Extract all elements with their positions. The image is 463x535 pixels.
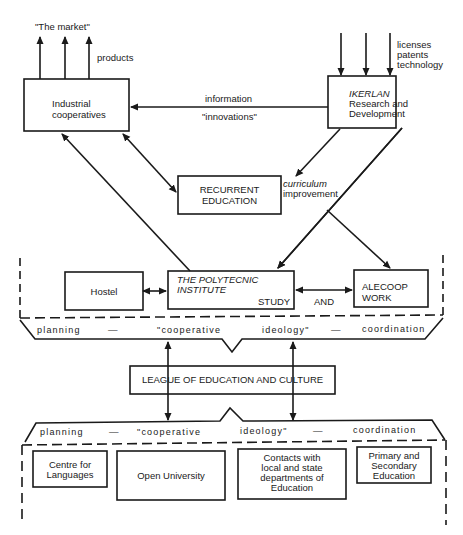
primary-line3: Education [357,470,431,481]
information-label: information [205,93,252,104]
banner-top-cooperative: "cooperative [157,325,221,336]
hostel-label: Hostel [65,286,143,297]
alecoop-line2: WORK [362,292,392,303]
improvement-label: improvement [283,188,338,199]
products-label: products [97,52,133,63]
contacts-line4: Education [238,482,346,493]
league-label: LEAGUE OF EDUCATION AND CULTURE [130,374,335,385]
banner-top-ideology: ideology" [262,325,310,336]
banner-bottom-coordination: coordination [353,425,416,436]
polytechnic-line2: INSTITUTE [177,284,226,295]
banner-bottom-cooperative: "cooperative [137,427,201,438]
input-technology: technology [397,59,443,70]
industrial-cooperatives-line2: cooperatives [52,109,106,120]
ikerlan-line3: Development [349,108,405,119]
banner-bottom-dash-1: — [109,426,119,437]
open-university-label: Open University [117,470,225,481]
alecoop-line1: ALECOOP [362,281,408,292]
banner-top-planning: planning [37,325,81,336]
market-label: "The market" [35,21,90,32]
banner-bottom-dash-2: — [313,425,323,436]
languages-line2: Languages [33,469,107,480]
industrial-cooperatives-line1: Industrial [52,98,91,109]
banner-bottom-planning: planning [40,427,84,438]
banner-top-coordination: coordination [362,324,425,335]
recurrent-line2: EDUCATION [178,195,281,206]
study-label: STUDY [258,296,290,307]
banner-top-dash-1: — [108,324,118,335]
innovations-label: "innovations" [202,111,257,122]
and-label: AND [314,296,334,307]
banner-bottom-ideology: ideology" [240,426,288,437]
recurrent-line1: RECURRENT [178,184,281,195]
banner-top-dash-2: — [331,324,341,335]
